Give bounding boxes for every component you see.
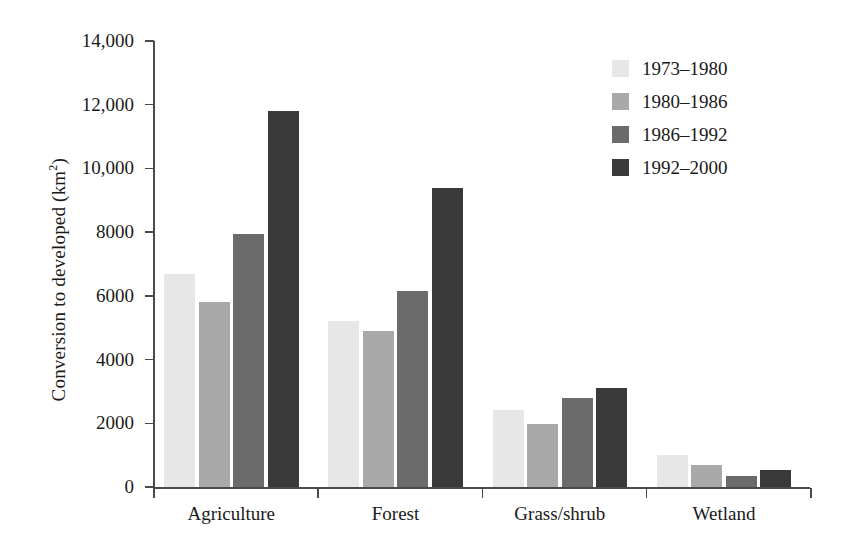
bar <box>726 476 757 487</box>
x-axis-category-label: Forest <box>372 503 420 525</box>
bar <box>328 321 359 487</box>
legend-label: 1992–2000 <box>642 157 728 179</box>
y-axis-tick-label: 12,000 <box>30 94 134 116</box>
legend-swatch-icon <box>612 93 629 110</box>
legend-item: 1980–1986 <box>612 85 728 118</box>
x-axis-tick <box>482 488 484 498</box>
y-axis-tick-label: 0 <box>30 476 134 498</box>
x-axis-category-label: Wetland <box>693 503 756 525</box>
legend-swatch-icon <box>612 126 629 143</box>
y-axis-tick-label: 4000 <box>30 349 134 371</box>
bar <box>657 455 688 487</box>
y-axis-tick-label: 2000 <box>30 412 134 434</box>
legend: 1973–19801980–19861986–19921992–2000 <box>612 52 728 184</box>
bar <box>363 331 394 487</box>
legend-label: 1986–1992 <box>642 124 728 146</box>
legend-swatch-icon <box>612 60 629 77</box>
bar <box>397 291 428 487</box>
x-axis-tick <box>317 488 319 498</box>
legend-swatch-icon <box>612 159 629 176</box>
x-axis-category-label: Grass/shrub <box>514 503 605 525</box>
bar <box>432 188 463 487</box>
legend-item: 1992–2000 <box>612 151 728 184</box>
bar <box>268 111 299 487</box>
legend-label: 1980–1986 <box>642 91 728 113</box>
bar <box>596 388 627 487</box>
bar <box>164 274 195 487</box>
y-axis-tick-label: 10,000 <box>30 157 134 179</box>
legend-item: 1986–1992 <box>612 118 728 151</box>
bar <box>562 398 593 487</box>
bar-chart: Conversion to developed (km2) 0200040006… <box>0 0 843 555</box>
bar <box>527 424 558 487</box>
x-axis-tick <box>153 488 155 498</box>
x-axis-tick <box>810 488 812 498</box>
bar <box>233 234 264 487</box>
y-axis-tick-label: 8000 <box>30 221 134 243</box>
bar <box>691 465 722 487</box>
y-axis-tick-label: 14,000 <box>30 30 134 52</box>
bar <box>760 470 791 487</box>
bar <box>493 410 524 487</box>
legend-label: 1973–1980 <box>642 58 728 80</box>
bar <box>199 302 230 487</box>
y-axis-tick-label: 6000 <box>30 285 134 307</box>
x-axis-category-label: Agriculture <box>187 503 275 525</box>
legend-item: 1973–1980 <box>612 52 728 85</box>
x-axis-tick <box>646 488 648 498</box>
